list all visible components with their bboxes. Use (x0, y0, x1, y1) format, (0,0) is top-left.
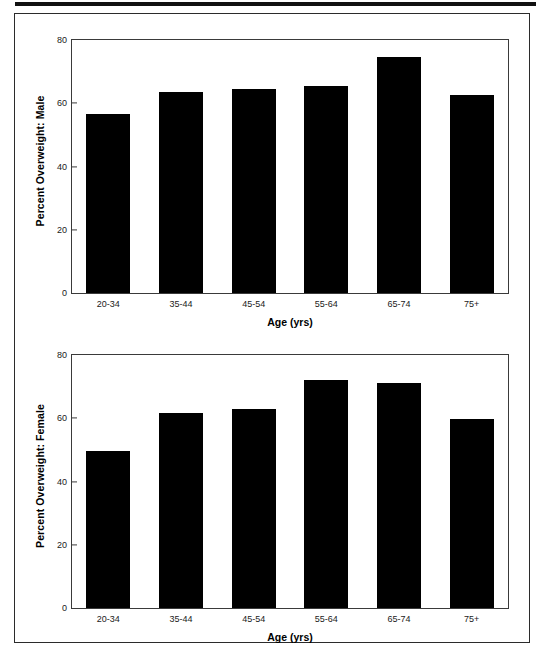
x-axis-title-female: Age (yrs) (71, 631, 509, 643)
x-tick-label-female: 65-74 (387, 614, 410, 624)
chart-panel-male: Percent Overweight: Male 20-3435-4445-54… (15, 20, 531, 325)
y-tick-mark-male (72, 103, 77, 104)
x-tick-label-male: 65-74 (387, 299, 410, 309)
x-tick-label-male: 35-44 (169, 299, 192, 309)
x-tick-label-female: 35-44 (169, 614, 192, 624)
bar-group-female: 35-44 (145, 355, 218, 608)
x-tick-label-male: 45-54 (242, 299, 265, 309)
bar-series-female: 20-3435-4445-5455-6465-7475+ (72, 355, 508, 608)
figure-frame: Percent Overweight: Male 20-3435-4445-54… (14, 13, 530, 643)
bar (377, 383, 421, 608)
y-axis-title-female: Percent Overweight: Female (34, 345, 48, 607)
bar (450, 419, 494, 608)
plot-area-male: 20-3435-4445-5455-6465-7475+ 020406080 (71, 39, 509, 294)
bar (86, 114, 130, 293)
bar-group-female: 65-74 (363, 355, 436, 608)
y-tick-label-female: 0 (62, 603, 67, 613)
bar (304, 86, 348, 293)
bar (232, 89, 276, 293)
bar (159, 92, 203, 293)
bar (377, 57, 421, 293)
y-tick-mark-male (72, 229, 77, 230)
y-tick-mark-female (72, 418, 77, 419)
bar-group-female: 45-54 (217, 355, 290, 608)
x-tick-label-male: 20-34 (97, 299, 120, 309)
bar (86, 451, 130, 608)
y-tick-mark-female (72, 481, 77, 482)
figure-page: Percent Overweight: Male 20-3435-4445-54… (0, 0, 543, 661)
y-tick-label-male: 0 (62, 288, 67, 298)
y-tick-label-male: 80 (57, 35, 67, 45)
y-tick-label-male: 60 (57, 98, 67, 108)
bar-group-male: 45-54 (217, 40, 290, 293)
x-axis-title-male: Age (yrs) (71, 316, 509, 328)
x-tick-label-male: 75+ (464, 299, 479, 309)
y-tick-label-female: 60 (57, 413, 67, 423)
y-tick-label-female: 80 (57, 350, 67, 360)
bar-group-male: 35-44 (145, 40, 218, 293)
x-tick-label-female: 55-64 (315, 614, 338, 624)
y-tick-label-male: 20 (57, 225, 67, 235)
bar-group-female: 20-34 (72, 355, 145, 608)
y-tick-mark-female (72, 544, 77, 545)
y-tick-label-female: 40 (57, 477, 67, 487)
x-tick-label-female: 45-54 (242, 614, 265, 624)
bar-group-male: 20-34 (72, 40, 145, 293)
bar (232, 409, 276, 608)
x-tick-label-female: 75+ (464, 614, 479, 624)
bar (304, 380, 348, 608)
x-tick-label-female: 20-34 (97, 614, 120, 624)
plot-area-female: 20-3435-4445-5455-6465-7475+ 020406080 (71, 354, 509, 609)
y-tick-label-female: 20 (57, 540, 67, 550)
bar-group-male: 75+ (435, 40, 508, 293)
x-tick-label-male: 55-64 (315, 299, 338, 309)
bar (450, 95, 494, 293)
bar-group-female: 75+ (435, 355, 508, 608)
bar (159, 413, 203, 608)
y-tick-label-male: 40 (57, 162, 67, 172)
bar-group-female: 55-64 (290, 355, 363, 608)
y-tick-mark-male (72, 166, 77, 167)
bar-series-male: 20-3435-4445-5455-6465-7475+ (72, 40, 508, 293)
y-axis-title-male: Percent Overweight: Male (34, 30, 48, 292)
bar-group-male: 65-74 (363, 40, 436, 293)
bar-group-male: 55-64 (290, 40, 363, 293)
chart-panel-female: Percent Overweight: Female 20-3435-4445-… (15, 335, 531, 640)
header-rule (15, 2, 536, 6)
